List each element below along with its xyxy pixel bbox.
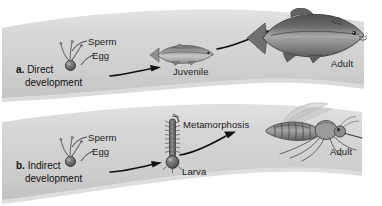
label-juvenile: Juvenile: [173, 66, 209, 77]
label-larva: Larva: [182, 166, 206, 177]
panel-a-caption-line2: development: [16, 77, 82, 90]
caption-panel-a: a. Direct development: [16, 64, 82, 89]
label-egg-a: Egg: [92, 50, 109, 61]
label-sperm-b: Sperm: [88, 132, 116, 143]
caption-panel-b: b. Indirect development: [16, 160, 82, 185]
label-egg-b: Egg: [92, 146, 109, 157]
label-sperm-a: Sperm: [88, 36, 116, 47]
label-adult-b: Adult: [330, 146, 352, 157]
panel-b-caption-line2: development: [16, 173, 82, 186]
arrow-egg-to-larva: [108, 158, 166, 178]
label-adult-a: Adult: [331, 58, 353, 69]
panel-b-caption-line1: Indirect: [28, 160, 61, 171]
developmental-biology-figure: Sperm Egg Juvenile Adult: [0, 0, 382, 206]
panel-a-letter: a.: [16, 64, 24, 75]
panel-a-caption-line1: Direct: [27, 64, 53, 75]
panel-b-letter: b.: [16, 160, 25, 171]
